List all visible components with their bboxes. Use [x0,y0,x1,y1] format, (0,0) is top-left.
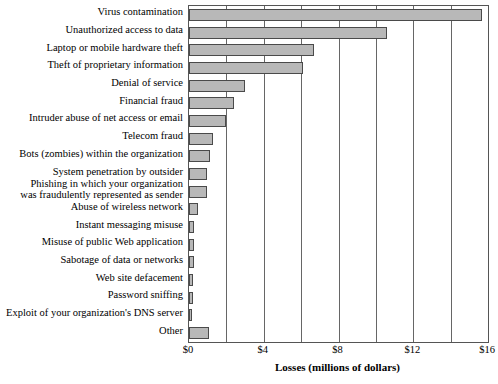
bar [189,239,194,251]
category-label: Laptop or mobile hardware theft [47,42,183,53]
bar [189,44,314,56]
category-label: Denial of service [111,77,183,88]
category-label: System penetration by outsider [53,166,183,177]
bar [189,97,234,109]
bar [189,150,210,162]
bar [189,186,207,198]
bar [189,133,213,145]
category-label: Other [159,325,183,336]
bar [189,62,303,74]
bar [189,256,194,268]
category-label: Web site defacement [96,272,183,283]
category-label: Abuse of wireless network [71,201,183,212]
x-axis-title: Losses (millions of dollars) [188,361,487,374]
bar [189,115,226,127]
bar-chart: Virus contaminationUnauthorized access t… [0,0,498,384]
category-label: Telecom fraud [122,130,183,141]
category-axis-labels: Virus contaminationUnauthorized access t… [0,4,186,340]
bar [189,80,245,92]
x-tick-label: $12 [404,344,420,356]
plot-area [188,5,489,343]
x-tick-label: $4 [258,344,269,356]
category-label: Exploit of your organization's DNS serve… [6,307,183,318]
bar [189,327,209,339]
bar [189,292,193,304]
bar [189,221,194,233]
x-tick-label: $16 [479,344,495,356]
bar [189,27,387,39]
bar [189,309,192,321]
category-label: Bots (zombies) within the organization [19,148,183,159]
x-tick-label: $8 [332,344,343,356]
bar [189,274,193,286]
category-label: Sabotage of data or networks [61,254,183,265]
bar [189,168,207,180]
category-label: Misuse of public Web application [42,236,183,247]
bar [189,203,198,215]
x-axis-tick-labels: $0$4$8$12$16 [188,344,487,358]
category-label: Intruder abuse of net access or email [29,112,183,123]
bar [189,9,482,21]
category-label: Theft of proprietary information [47,59,183,70]
category-label: Virus contamination [98,6,183,17]
category-label: Password sniffing [108,289,183,300]
category-label: Financial fraud [119,95,183,106]
bar-series [189,6,488,342]
category-label: Instant messaging misuse [76,219,183,230]
category-label: Unauthorized access to data [66,24,184,35]
category-label: Phishing in which your organization was … [20,178,183,200]
x-tick-label: $0 [183,344,194,356]
